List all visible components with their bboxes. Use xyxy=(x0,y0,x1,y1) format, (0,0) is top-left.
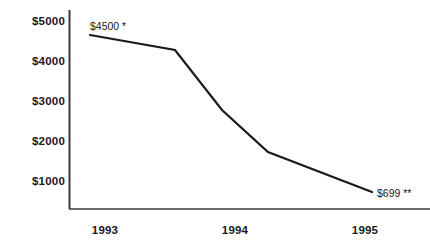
plot-area xyxy=(0,0,430,252)
line-chart: $5000 $4000 $3000 $2000 $1000 1993 1994 … xyxy=(0,0,430,252)
data-series-line xyxy=(90,35,372,192)
